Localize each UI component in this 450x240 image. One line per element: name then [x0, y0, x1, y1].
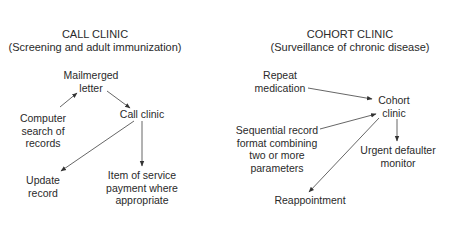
arrow-computer-to-letter — [60, 93, 77, 107]
call-clinic-title: CALL CLINIC (Screening and adult immuniz… — [0, 28, 190, 54]
node-cohort-clinic: Cohort clinic — [373, 94, 415, 119]
node-computer-search: Computer search of records — [12, 112, 74, 150]
arrow-sequential-to-cohort — [320, 114, 376, 129]
node-sequential-record: Sequential record format combining two o… — [232, 124, 322, 174]
node-mailmerged-letter: Mailmerged letter — [55, 69, 127, 94]
node-update-record: Update record — [18, 174, 68, 199]
node-item-of-service: Item of service payment where appropriat… — [100, 169, 184, 207]
arrow-repeat-to-cohort — [308, 88, 372, 99]
node-reappointment: Reappointment — [265, 194, 355, 207]
node-urgent-defaulter: Urgent defaulter monitor — [355, 144, 441, 169]
node-repeat-medication: Repeat medication — [250, 69, 310, 94]
node-call-clinic: Call clinic — [112, 108, 172, 121]
cohort-clinic-title: COHORT CLINIC (Surveillance of chronic d… — [255, 28, 445, 54]
